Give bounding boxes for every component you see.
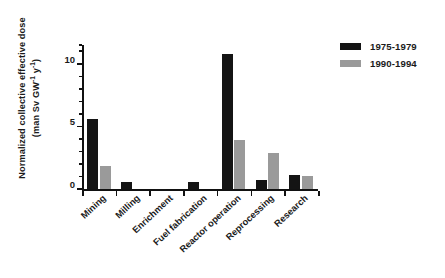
y-axis-tick-label: 0 [70, 179, 75, 190]
plot-area: 0510 [82, 45, 318, 191]
bar [268, 153, 279, 189]
y-axis-minor-tick [79, 151, 82, 153]
y-axis-title-line2: (man Sv GW-1 y-1) [30, 0, 44, 196]
chart-figure: Normalized collective effective dose (ma… [0, 0, 445, 278]
y-axis-tick-label: 5 [70, 116, 75, 127]
x-axis-line [82, 189, 318, 191]
legend-label: 1990-1994 [370, 58, 417, 69]
y-axis-minor-tick [79, 176, 82, 178]
y-axis-line [82, 45, 84, 191]
y-axis-minor-tick [79, 138, 82, 140]
y-axis-major-tick [77, 126, 82, 128]
legend: 1975-19791990-1994 [340, 38, 417, 72]
y-axis-unit-sup2: -1 [28, 62, 35, 68]
y-axis-unit-mid: y [31, 68, 41, 76]
y-axis-minor-tick [79, 101, 82, 103]
bar [121, 182, 132, 190]
bar [302, 176, 313, 189]
y-axis-unit-sup1: -1 [28, 76, 35, 82]
bar [100, 166, 111, 189]
y-axis-unit-prefix: (man Sv GW [31, 82, 41, 137]
legend-label: 1975-1979 [370, 41, 417, 52]
y-axis-title: Normalized collective effective dose (ma… [16, 0, 60, 200]
y-axis-minor-tick [79, 163, 82, 165]
x-axis-category-labels: MiningMillingEnrichmentFuel fabricationR… [82, 193, 342, 278]
y-axis-minor-tick [79, 88, 82, 90]
bar [188, 182, 199, 190]
bar [222, 54, 233, 189]
y-axis-major-tick [77, 63, 82, 65]
bar [234, 140, 245, 189]
y-axis-tick-label: 10 [64, 53, 75, 64]
y-axis-minor-tick [79, 113, 82, 115]
y-axis-unit-suffix: ) [31, 59, 41, 62]
legend-item: 1975-1979 [340, 38, 417, 55]
bar [256, 180, 267, 189]
y-axis-minor-tick [79, 50, 82, 52]
bar [289, 175, 300, 189]
legend-item: 1990-1994 [340, 55, 417, 72]
legend-swatch [340, 43, 361, 50]
bar [87, 119, 98, 189]
y-axis-minor-tick [79, 76, 82, 78]
legend-swatch [340, 60, 361, 67]
y-axis-title-line1: Normalized collective effective dose [17, 17, 27, 178]
y-axis-minor-tick [79, 44, 82, 46]
y-axis-major-tick [77, 188, 82, 190]
